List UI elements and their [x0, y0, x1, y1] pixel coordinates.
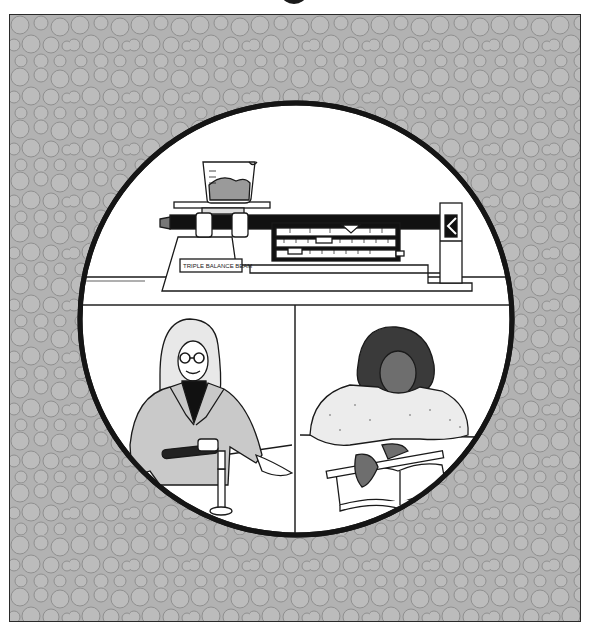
cover-artwork: TRIPLE BALANCE BEAM: [10, 15, 580, 621]
title-fragment-text: g: [0, 0, 1, 1]
svg-text:TRIPLE BALANCE BEAM: TRIPLE BALANCE BEAM: [183, 263, 252, 269]
title-text-fragment: [282, 0, 306, 4]
cover-frame: TRIPLE BALANCE BEAM: [9, 14, 581, 622]
